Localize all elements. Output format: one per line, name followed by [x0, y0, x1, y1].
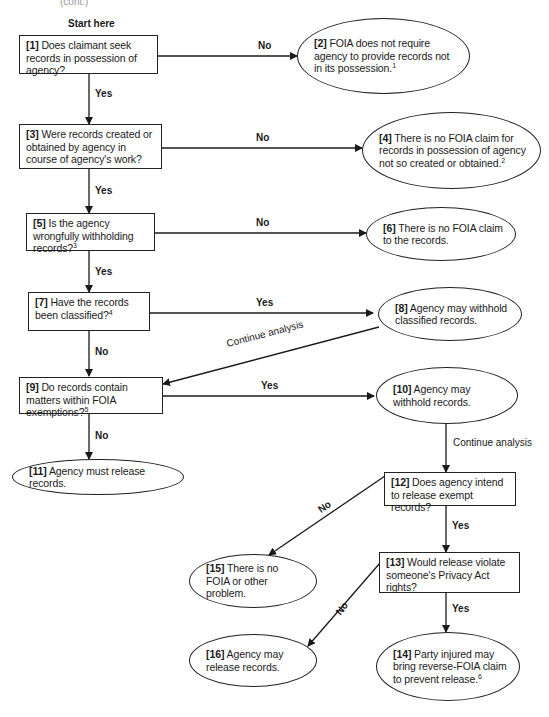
node-number: [3] [26, 128, 39, 140]
edge-label-9-11: No [95, 430, 108, 441]
node-number: [14] [393, 648, 411, 660]
edge-label-7-8: Yes [256, 297, 273, 308]
node-number: [5] [33, 217, 46, 229]
outcome-node-11[interactable]: [11] Agency must release records. [12, 459, 184, 495]
decision-node-9[interactable]: [9] Do records contain matters within FO… [19, 377, 163, 414]
outcome-node-8[interactable]: [8] Agency may withhold classified recor… [378, 287, 522, 341]
edge-label-1-2: No [258, 40, 271, 51]
node-text: Agency may withhold classified records. [395, 302, 507, 327]
node-number: [13] [386, 556, 404, 568]
outcome-node-14[interactable]: [14] Party injured may bring reverse-FOI… [376, 632, 520, 701]
edge-label-12-13: Yes [452, 520, 469, 531]
edge-label-1-3: Yes [95, 88, 112, 99]
footnote-marker: 6 [478, 672, 482, 679]
node-text: There is no FOIA claim to the records. [383, 222, 503, 247]
node-number: [10] [393, 383, 411, 395]
decision-node-3[interactable]: [3] Were records created or obtained by … [19, 124, 162, 169]
edge-label-3-5: Yes [95, 185, 112, 196]
node-text: Party injured may bring reverse-FOIA cla… [393, 648, 507, 685]
node-text: Have the records been classified? [35, 296, 129, 321]
node-number: [16] [206, 648, 224, 660]
node-number: [1] [26, 39, 39, 51]
edge-label-7-9: No [95, 346, 108, 357]
start-here-label: Start here [68, 18, 115, 29]
node-number: [6] [383, 222, 396, 234]
footnote-marker: 5 [84, 406, 88, 413]
footnote-marker: 2 [501, 156, 505, 163]
decision-node-12[interactable]: [12] Does agency intend to release exemp… [384, 472, 516, 506]
footnote-marker: 4 [109, 308, 113, 315]
node-text: Do records contain matters within FOIA e… [26, 381, 128, 418]
decision-node-5[interactable]: [5] Is the agency wrongfully withholding… [26, 213, 155, 251]
decision-node-7[interactable]: [7] Have the records been classified?4 [28, 292, 150, 331]
node-number: [11] [29, 465, 47, 477]
edge-12-15 [269, 476, 385, 555]
outcome-node-10[interactable]: [10] Agency may withhold records. [376, 367, 518, 424]
node-number: [9] [26, 381, 39, 393]
edge-label-13-14: Yes [452, 603, 469, 614]
node-text: FOIA does not require agency to provide … [314, 37, 449, 74]
node-text: Would release violate someone's Privacy … [386, 556, 505, 593]
edge-label-10-12: Continue analysis [453, 437, 532, 448]
edge-label-3-4: No [256, 132, 269, 143]
node-number: [7] [35, 296, 48, 308]
node-number: [15] [206, 562, 224, 574]
node-text: Does claimant seek records in possession… [26, 39, 137, 76]
decision-node-13[interactable]: [13] Would release violate someone's Pri… [379, 552, 520, 593]
outcome-node-6[interactable]: [6] There is no FOIA claim to the record… [366, 207, 516, 261]
flowchart-canvas: (cont.) [0, 0, 549, 717]
node-text: Is the agency wrongfully withholding rec… [33, 217, 134, 254]
footnote-marker: 1 [392, 62, 396, 69]
node-text: Agency must release records. [29, 465, 145, 490]
node-number: [4] [379, 132, 392, 144]
node-number: [12] [391, 476, 409, 488]
edge-label-5-6: No [256, 217, 269, 228]
node-number: [2] [314, 37, 327, 49]
node-text: Were records created or obtained by agen… [26, 128, 152, 165]
decision-node-1[interactable]: [1] Does claimant seek records in posses… [19, 35, 158, 74]
edge-label-5-7: Yes [95, 266, 112, 277]
outcome-node-4[interactable]: [4] There is no FOIA claim for records i… [362, 112, 541, 189]
edge-label-9-10: Yes [261, 380, 278, 391]
outcome-node-15[interactable]: [15] There is no FOIA or other problem. [189, 554, 317, 608]
node-number: [8] [395, 302, 408, 314]
outcome-node-16[interactable]: [16] Agency may release records. [189, 634, 317, 687]
outcome-node-2[interactable]: [2] FOIA does not require agency to prov… [297, 18, 470, 94]
footnote-marker: 3 [73, 242, 77, 249]
